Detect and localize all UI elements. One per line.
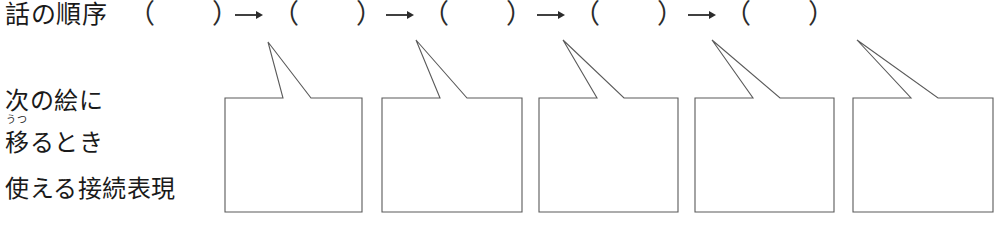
answer-bubbles-group — [0, 0, 1000, 232]
worksheet-page: 話の順序 （ ） （ ） （ — [0, 0, 1000, 232]
answer-bubble-5[interactable] — [853, 98, 993, 213]
answer-bubble-3[interactable] — [539, 98, 678, 213]
answer-bubble-4[interactable] — [695, 98, 834, 213]
answer-bubble-2[interactable] — [382, 98, 522, 213]
answer-bubble-1[interactable] — [225, 98, 362, 213]
